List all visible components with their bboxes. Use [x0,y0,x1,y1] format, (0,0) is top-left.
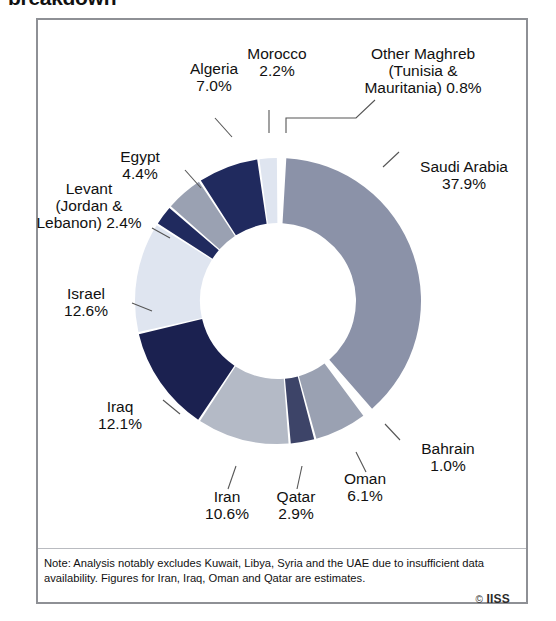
label-iraq-line: Iraq [76,398,164,415]
footnote-divider [38,548,526,549]
label-morocco: Morocco2.2% [228,45,326,79]
label-saudi-arabia-line: 37.9% [398,175,530,192]
label-other-maghreb: Other Maghreb(Tunisia &Mauritania) 0.8% [334,45,512,96]
leader-oman [356,452,366,472]
label-iran-line: 10.6% [182,505,272,522]
leader-iran [228,466,236,489]
leader-egypt [185,170,201,188]
copyright-symbol: © [475,594,483,605]
label-iran: Iran10.6% [182,488,272,522]
leader-bahrain [385,424,400,440]
label-algeria-line: 7.0% [168,77,260,94]
label-iraq: Iraq12.1% [76,398,164,432]
donut-slices [135,158,421,444]
slice-saudi-arabia[interactable] [283,158,421,408]
copyright: © IISS [475,592,510,606]
label-other-maghreb-line: Other Maghreb [334,45,512,62]
footnote-line-2: availability. Figures for Iran, Iraq, Om… [44,571,520,586]
label-egypt: Egypt4.4% [94,148,186,182]
label-israel-line: 12.6% [38,302,134,319]
label-levant: Levant(Jordan &Lebanon) 2.4% [24,180,154,231]
leader-qatar [297,466,302,489]
label-other-maghreb-line: Mauritania) 0.8% [334,79,512,96]
label-israel-line: Israel [38,285,134,302]
label-saudi-arabia: Saudi Arabia37.9% [398,158,530,192]
label-levant-line: Lebanon) 2.4% [24,214,154,231]
label-morocco-line: Morocco [228,45,326,62]
leader-saudi-arabia [383,152,399,167]
label-levant-line: Levant [24,180,154,197]
label-bahrain-line: 1.0% [398,457,498,474]
footnote: Note: Analysis notably excludes Kuwait, … [44,556,520,585]
leader-other-maghreb [286,100,375,133]
label-levant-line: (Jordan & [24,197,154,214]
footnote-line-1: Note: Analysis notably excludes Kuwait, … [44,556,520,571]
label-bahrain: Bahrain1.0% [398,440,498,474]
label-other-maghreb-line: (Tunisia & [334,62,512,79]
label-morocco-line: 2.2% [228,62,326,79]
label-oman-line: Oman [322,470,408,487]
label-israel: Israel12.6% [38,285,134,319]
label-iraq-line: 12.1% [76,415,164,432]
label-iran-line: Iran [182,488,272,505]
label-bahrain-line: Bahrain [398,440,498,457]
label-egypt-line: Egypt [94,148,186,165]
copyright-text: IISS [487,592,510,606]
label-egypt-line: 4.4% [94,165,186,182]
label-saudi-arabia-line: Saudi Arabia [398,158,530,175]
leader-algeria [215,118,232,137]
